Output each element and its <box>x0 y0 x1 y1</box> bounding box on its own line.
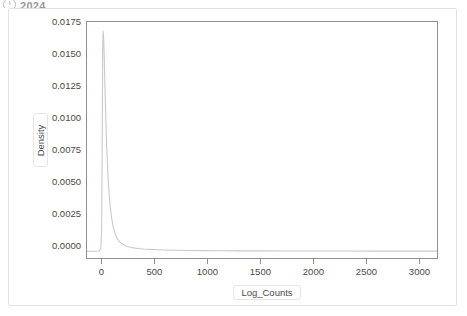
y-axis-ticks: 0.0175 0.0150 0.0125 0.0100 0.0075 0.005… <box>23 21 81 259</box>
x-axis-ticks: 0 500 1000 1500 2000 2500 3000 <box>86 259 438 285</box>
x-tick-mark <box>313 259 314 264</box>
chart-card: 0.0175 0.0150 0.0125 0.0100 0.0075 0.005… <box>8 8 457 306</box>
x-tick-mark <box>366 259 367 264</box>
y-tick-label: 0.0025 <box>52 208 81 219</box>
y-tick-label: 0.0100 <box>52 112 81 123</box>
plot-area <box>86 21 438 259</box>
x-tick-mark <box>154 259 155 264</box>
x-tick-label: 1000 <box>197 266 218 277</box>
y-tick-label: 0.0075 <box>52 144 81 155</box>
header-title: 2024 <box>20 0 46 8</box>
y-tick-label: 0.0000 <box>52 240 81 251</box>
x-tick-mark <box>101 259 102 264</box>
x-tick-label: 0 <box>99 266 104 277</box>
density-plot-figure: 0.0175 0.0150 0.0125 0.0100 0.0075 0.005… <box>9 9 458 307</box>
x-tick-label: 2500 <box>356 266 377 277</box>
density-curve-svg <box>87 22 437 258</box>
y-axis-title: Density <box>33 113 48 167</box>
x-tick-label: 3000 <box>409 266 430 277</box>
density-curve <box>87 31 437 251</box>
x-tick-mark <box>207 259 208 264</box>
clock-icon <box>3 0 16 8</box>
x-tick-label: 1500 <box>250 266 271 277</box>
x-tick-mark <box>260 259 261 264</box>
x-tick-label: 2000 <box>303 266 324 277</box>
header-strip: 2024 <box>0 0 467 8</box>
x-tick-label: 500 <box>146 266 162 277</box>
x-axis-title: Log_Counts <box>233 285 301 300</box>
y-tick-label: 0.0150 <box>52 48 81 59</box>
x-axis-title-text: Log_Counts <box>241 287 292 298</box>
y-axis-title-text: Density <box>35 124 46 156</box>
screenshot-root: 2024 0.0175 0.0150 0.0125 0.0100 0.0075 … <box>0 0 467 316</box>
y-tick-label: 0.0175 <box>52 16 81 27</box>
x-tick-mark <box>419 259 420 264</box>
y-tick-label: 0.0050 <box>52 176 81 187</box>
y-tick-label: 0.0125 <box>52 80 81 91</box>
